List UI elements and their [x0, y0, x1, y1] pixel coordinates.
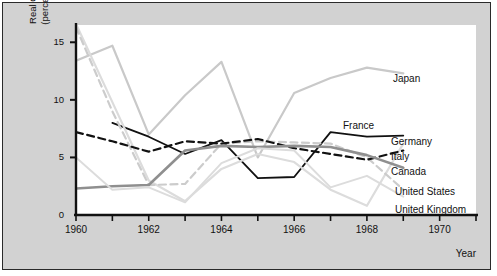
x-tick-label: 1960 — [56, 224, 96, 235]
x-tick-label: 1962 — [129, 224, 169, 235]
series-label-france: France — [343, 120, 374, 131]
series-label-united-states: United States — [395, 186, 455, 197]
y-axis-title-line1: Real GNP growth — [27, 0, 39, 47]
figure-frame: Real GNP growth (percent per year) 05101… — [2, 2, 491, 270]
y-tick-label: 10 — [42, 94, 64, 105]
chart-screenshot: Real GNP growth (percent per year) 05101… — [0, 0, 497, 276]
x-axis-title: Year — [456, 248, 476, 259]
series-line-germany — [76, 25, 403, 206]
x-tick-label: 1968 — [347, 224, 387, 235]
series-label-italy: Italy — [391, 151, 409, 162]
x-tick-label: 1970 — [420, 224, 460, 235]
series-label-canada: Canada — [391, 166, 426, 177]
series-label-united-kingdom: United Kingdom — [395, 204, 466, 215]
y-tick-label: 5 — [42, 151, 64, 162]
series-line-united-kingdom — [76, 148, 403, 202]
y-tick-label: 15 — [42, 36, 64, 47]
series-line-united-states — [76, 146, 403, 189]
y-tick-label: 0 — [42, 209, 64, 220]
x-tick-label: 1966 — [274, 224, 314, 235]
series-label-germany: Germany — [391, 136, 432, 147]
x-tick-label: 1964 — [201, 224, 241, 235]
series-label-japan: Japan — [393, 73, 420, 84]
